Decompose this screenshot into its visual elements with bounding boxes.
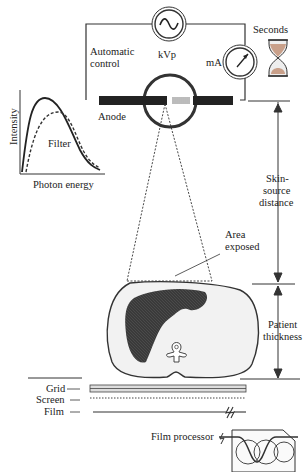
patient-cross-section: [107, 282, 258, 378]
intensity-axis-label: Intensity: [8, 108, 19, 145]
screen-label: Screen: [36, 394, 65, 405]
filter-label: Filter: [48, 138, 71, 149]
xray-system-diagram: kVp Automatic control mA Seconds Anode: [0, 0, 307, 472]
anode-rod: [99, 96, 167, 105]
skin-source-label-2: source: [263, 185, 291, 196]
ma-meter-icon: [223, 45, 257, 79]
spectrum-plot: [20, 90, 105, 174]
xray-beam-cone: [127, 104, 212, 281]
hourglass-icon: [268, 40, 288, 76]
area-exposed-label: Area: [225, 229, 246, 240]
cathode-rod: [193, 96, 233, 105]
kvp-generator-icon: [152, 7, 186, 41]
film-processor-label: Film processor: [151, 431, 214, 442]
grid-label: Grid: [46, 383, 66, 394]
skin-source-label-3: distance: [259, 197, 294, 208]
area-exposed-pointer: [175, 254, 220, 276]
automatic-control-label-2: control: [90, 58, 120, 69]
area-exposed-label-2: exposed: [225, 241, 260, 252]
patient-thickness-label-1: Patient: [268, 319, 297, 330]
skin-source-label-1: Skin-: [266, 173, 289, 184]
photon-energy-axis-label: Photon energy: [33, 179, 95, 190]
film-label: Film: [44, 406, 64, 417]
automatic-control-label: Automatic: [90, 46, 135, 57]
grid-layer: [90, 385, 246, 392]
seconds-label: Seconds: [253, 24, 288, 35]
film-processor-icon: [219, 430, 298, 472]
anode-label: Anode: [98, 111, 126, 122]
ma-label: mA: [206, 57, 222, 68]
kvp-label: kVp: [158, 49, 176, 60]
patient-thickness-label-2: thickness: [263, 331, 302, 342]
film-layer: [93, 407, 246, 418]
